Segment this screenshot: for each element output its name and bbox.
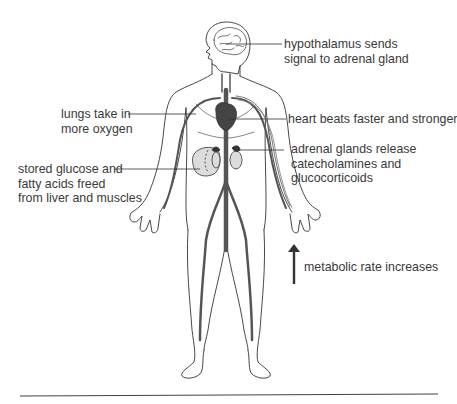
left-kidney-icon — [212, 152, 220, 168]
adrenal-gland-icon — [232, 146, 240, 151]
brain-icon — [214, 28, 247, 55]
right-kidney-icon — [230, 151, 242, 169]
label-lungs-line2: more oxygen — [61, 122, 133, 137]
label-heart: heart beats faster and stronger — [288, 112, 457, 127]
label-adrenal-line3: glucocorticoids — [291, 171, 416, 186]
label-glucose-line3: from liver and muscles — [18, 191, 142, 206]
label-adrenal-line2: catecholamines and — [291, 157, 416, 172]
heart-icon — [216, 102, 237, 130]
label-heart-line1: heart beats faster and stronger — [288, 112, 457, 127]
organs — [193, 102, 243, 176]
label-hypothalamus-line2: signal to adrenal gland — [284, 52, 409, 67]
label-glucose: stored glucose and fatty acids freed fro… — [18, 162, 142, 206]
label-adrenal-line1: adrenal glands release — [291, 142, 416, 157]
bottom-rule — [20, 394, 438, 396]
label-hypothalamus-line1: hypothalamus sends — [284, 37, 409, 52]
label-lungs-line1: lungs take in — [61, 107, 133, 122]
up-arrow-icon — [288, 244, 300, 284]
label-lungs: lungs take in more oxygen — [61, 107, 133, 136]
label-metabolic-line1: metabolic rate increases — [304, 260, 438, 275]
label-metabolic: metabolic rate increases — [304, 260, 438, 275]
label-adrenal: adrenal glands release catecholamines an… — [291, 142, 416, 186]
label-glucose-line1: stored glucose and — [18, 162, 142, 177]
label-glucose-line2: fatty acids freed — [18, 177, 142, 192]
head-outline — [206, 22, 250, 74]
label-hypothalamus: hypothalamus sends signal to adrenal gla… — [284, 37, 409, 66]
